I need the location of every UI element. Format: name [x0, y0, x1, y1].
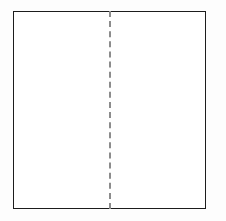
figure-canvas — [0, 0, 226, 221]
figure-title — [0, 0, 1, 1]
figure-caption — [0, 0, 1, 1]
vertical-dashed-fold-line — [109, 11, 111, 209]
rectangle-label — [14, 12, 15, 13]
